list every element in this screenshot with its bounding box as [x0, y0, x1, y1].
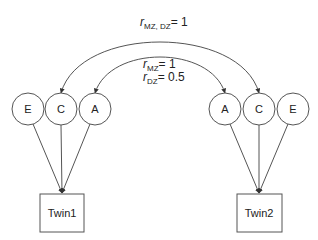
svg-text:Twin2: Twin2 — [245, 207, 274, 219]
path-a2-twin2 — [230, 124, 259, 193]
c-correlation-label: rMZ, DZ= 1 — [140, 15, 188, 31]
path-c1-twin1 — [61, 125, 62, 193]
factor-c1: C — [45, 93, 77, 125]
svg-text:E: E — [289, 103, 296, 115]
factor-e1: E — [12, 93, 44, 125]
twin2-box: Twin2 — [237, 194, 282, 232]
svg-text:C: C — [57, 103, 65, 115]
ace-twin-diagram: rMZ, DZ= 1 rMZ= 1 rDZ= 0.5 E C A A C E — [0, 0, 318, 240]
path-a1-twin1 — [62, 124, 90, 193]
svg-text:A: A — [91, 103, 99, 115]
svg-text:C: C — [255, 103, 263, 115]
twin1-box: Twin1 — [40, 194, 84, 232]
factor-a2: A — [209, 93, 241, 125]
svg-text:E: E — [24, 103, 31, 115]
factor-c2: C — [243, 93, 275, 125]
factor-a1: A — [79, 93, 111, 125]
svg-text:A: A — [221, 103, 229, 115]
svg-text:Twin1: Twin1 — [48, 207, 77, 219]
factor-e2: E — [277, 93, 309, 125]
path-e1-twin1 — [33, 124, 62, 193]
path-e2-twin2 — [259, 124, 288, 193]
